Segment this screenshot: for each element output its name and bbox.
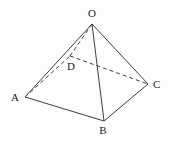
vertex-label-O: O [88,7,96,19]
edge-OA [25,24,92,97]
vertex-label-B: B [99,124,106,136]
edge-BC [104,84,148,121]
vertex-label-C: C [153,78,160,90]
vertex-label-A: A [11,91,19,103]
geometry-figure: OABCD [0,0,170,147]
edge-OC [92,24,148,84]
vertex-label-D: D [67,60,75,72]
edge-OD-hidden [70,24,92,56]
edge-AD-hidden [25,56,70,97]
edge-AB [25,97,104,121]
edge-OB [92,24,104,121]
pyramid-diagram: OABCD [0,0,170,147]
edge-DC-hidden [70,56,148,84]
